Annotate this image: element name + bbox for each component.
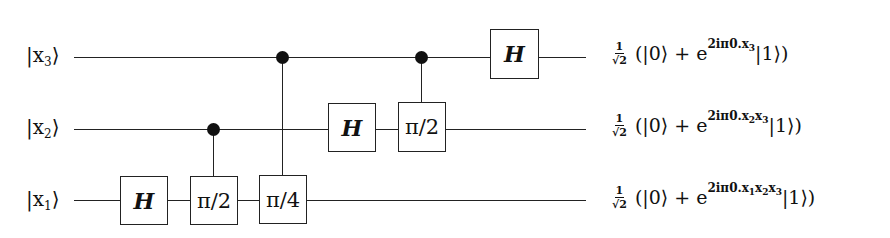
control-line-x2-to-x1 <box>213 129 214 176</box>
phase-gate-pi-2-x2: π/2 <box>398 102 446 152</box>
hadamard-gate-x2: H <box>328 103 376 152</box>
control-dot-x3 <box>415 51 428 64</box>
fraction: 1√2 <box>612 185 627 210</box>
fraction-denominator: √2 <box>612 198 627 210</box>
phase-gate-pi-2-x1: π/2 <box>190 176 238 225</box>
exponent-subscript: 2 <box>762 187 768 197</box>
exponent-subscript: 1 <box>749 187 755 197</box>
ket-subscript: 2 <box>44 127 52 141</box>
exponent-subscript: 3 <box>762 115 768 125</box>
exponent: 2iπ0.x2x3 <box>707 109 768 123</box>
gate-label: π/2 <box>197 189 231 213</box>
ket-text: |x <box>26 187 44 211</box>
gate-label: H <box>134 188 155 214</box>
fraction-numerator: 1 <box>615 113 625 126</box>
control-dot-x2 <box>207 123 220 136</box>
fraction-denominator: √2 <box>612 126 627 138</box>
control-line-x3-to-x1 <box>282 57 283 176</box>
gate-label: H <box>342 115 363 141</box>
exponent-subscript: 2 <box>749 115 755 125</box>
output-state-x2: 1√2 (|0⟩ + e2iπ0.x2x3 |1⟩) <box>612 112 802 137</box>
ket-close: ⟩ <box>52 43 60 67</box>
output-state-x3: 1√2 (|0⟩ + e2iπ0.x3 |1⟩) <box>612 40 788 65</box>
fraction-numerator: 1 <box>615 41 625 54</box>
exponent-prefix: 2iπ0.x <box>707 37 748 51</box>
state-close: |1⟩) <box>755 42 788 64</box>
fraction: 1√2 <box>612 41 627 66</box>
ket-close: ⟩ <box>52 115 60 139</box>
output-state-x1: 1√2 (|0⟩ + e2iπ0.x1x2x3 |1⟩) <box>612 184 815 209</box>
ket-text: |x <box>26 43 44 67</box>
hadamard-gate-x1: H <box>120 176 168 225</box>
ket-subscript: 3 <box>44 55 52 69</box>
ket-text: |x <box>26 115 44 139</box>
ket-close: ⟩ <box>52 187 60 211</box>
ket-subscript: 1 <box>44 199 52 213</box>
state-close: |1⟩) <box>769 114 802 136</box>
gate-label: π/2 <box>405 115 439 139</box>
gate-label: H <box>504 41 525 67</box>
qubit-label-x1: |x1⟩ <box>26 187 59 211</box>
gate-label: π/4 <box>266 188 300 212</box>
exponent-prefix: 2iπ0.x <box>707 181 748 195</box>
exponent-var: x <box>769 181 776 195</box>
qubit-label-x2: |x2⟩ <box>26 115 59 139</box>
qubit-label-x3: |x3⟩ <box>26 43 59 67</box>
exponent: 2iπ0.x1x2x3 <box>707 181 781 195</box>
hadamard-gate-x3: H <box>490 29 539 79</box>
exponent-prefix: 2iπ0.x <box>707 109 748 123</box>
fraction-numerator: 1 <box>615 185 625 198</box>
exponent: 2iπ0.x3 <box>707 37 755 51</box>
state-open: (|0⟩ + e <box>635 186 708 208</box>
state-close: |1⟩) <box>782 186 815 208</box>
fraction-denominator: √2 <box>612 54 627 66</box>
exponent-subscript: 3 <box>749 43 755 53</box>
state-open: (|0⟩ + e <box>635 42 708 64</box>
phase-gate-pi-4-x1: π/4 <box>259 175 307 224</box>
control-dot-x3 <box>276 51 289 64</box>
fraction: 1√2 <box>612 113 627 138</box>
state-open: (|0⟩ + e <box>635 114 708 136</box>
exponent-subscript: 3 <box>776 187 782 197</box>
